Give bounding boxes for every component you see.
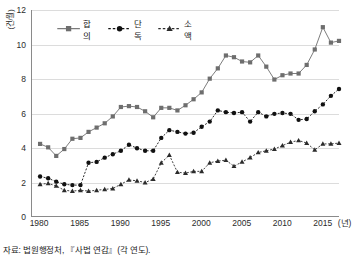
data-point-marker xyxy=(62,188,67,192)
data-point-marker xyxy=(337,140,342,144)
data-point-marker xyxy=(256,110,260,114)
data-point-marker xyxy=(337,39,341,43)
data-point-marker xyxy=(264,65,268,69)
data-point-marker xyxy=(46,176,50,180)
data-point-marker xyxy=(280,111,284,115)
data-point-marker xyxy=(159,160,164,164)
y-tick-label: 8 xyxy=(21,75,26,84)
data-point-marker xyxy=(127,104,131,108)
data-point-marker xyxy=(94,160,98,164)
data-point-marker xyxy=(151,149,155,153)
data-point-marker xyxy=(103,155,107,159)
series-line xyxy=(40,140,339,191)
data-point-marker xyxy=(167,106,171,110)
y-axis-tick-labels: 121086420 xyxy=(0,10,29,217)
data-point-marker xyxy=(151,115,155,119)
data-point-marker xyxy=(304,117,308,121)
data-point-marker xyxy=(240,59,244,63)
legend-swatch-square-icon xyxy=(56,23,81,34)
y-tick-label: 0 xyxy=(21,213,26,222)
data-point-marker xyxy=(191,97,195,101)
data-point-marker xyxy=(78,136,82,140)
data-point-marker xyxy=(175,170,180,174)
chart-legend: 합의단독소액 xyxy=(56,17,195,41)
data-point-marker xyxy=(135,105,139,109)
data-point-marker xyxy=(159,106,163,110)
legend-label: 단독 xyxy=(134,17,144,41)
data-point-marker xyxy=(38,174,42,178)
legend-item-소액[interactable]: 소액 xyxy=(157,17,195,41)
data-point-marker xyxy=(102,187,107,191)
data-point-marker xyxy=(143,180,148,184)
series-소액 xyxy=(38,138,342,193)
data-point-marker xyxy=(38,142,42,146)
data-point-marker xyxy=(46,145,50,149)
legend-swatch-triangle-icon xyxy=(157,23,182,34)
legend-swatch-circle-icon xyxy=(107,23,132,34)
chart-figure: (건/월) 121086420 198019851990199520002005… xyxy=(0,0,357,262)
data-point-marker xyxy=(296,118,300,122)
data-point-marker xyxy=(248,60,252,64)
data-point-marker xyxy=(54,154,58,158)
x-axis-tick-labels: 19801985199019952000200520102015 xyxy=(31,219,339,233)
data-point-marker xyxy=(223,158,228,162)
data-point-marker xyxy=(240,110,244,114)
data-point-marker xyxy=(224,53,228,57)
data-point-marker xyxy=(127,143,131,147)
data-point-marker xyxy=(248,155,253,159)
data-point-marker xyxy=(167,152,172,156)
x-tick-label: 1985 xyxy=(70,219,89,228)
data-point-marker xyxy=(86,130,90,134)
data-point-marker xyxy=(54,179,58,183)
data-point-marker xyxy=(272,112,276,116)
data-point-marker xyxy=(119,149,123,153)
data-point-marker xyxy=(207,160,212,164)
data-point-marker xyxy=(240,159,245,163)
data-point-marker xyxy=(329,41,333,45)
source-note: 자료: 법원행정처, 『사법 연감』(각 연도). xyxy=(3,243,150,255)
plot-area xyxy=(31,10,339,217)
x-axis-unit-label: (년) xyxy=(338,219,352,228)
series-line xyxy=(40,89,339,185)
data-point-marker xyxy=(159,136,163,140)
data-point-marker xyxy=(116,26,122,32)
data-point-marker xyxy=(111,114,115,118)
data-point-marker xyxy=(216,108,220,112)
data-point-marker xyxy=(232,55,236,59)
legend-item-합의[interactable]: 합의 xyxy=(56,17,94,41)
data-point-marker xyxy=(175,108,179,112)
x-tick-label: 1995 xyxy=(151,219,170,228)
y-tick-label: 12 xyxy=(17,6,26,15)
data-point-marker xyxy=(70,137,74,141)
y-tick-label: 4 xyxy=(21,144,26,153)
data-point-marker xyxy=(288,140,293,144)
series-line xyxy=(40,27,339,156)
data-point-marker xyxy=(143,149,147,153)
data-point-marker xyxy=(78,183,82,187)
legend-item-단독[interactable]: 단독 xyxy=(107,17,145,41)
x-tick-label: 2000 xyxy=(192,219,211,228)
data-point-marker xyxy=(272,146,277,150)
data-point-marker xyxy=(199,169,204,173)
data-point-marker xyxy=(216,66,220,70)
data-point-marker xyxy=(175,130,179,134)
data-point-marker xyxy=(119,105,123,109)
data-point-marker xyxy=(208,77,212,81)
x-tick-label: 2015 xyxy=(313,219,332,228)
data-point-marker xyxy=(62,182,66,186)
x-tick-label: 2005 xyxy=(232,219,251,228)
data-point-marker xyxy=(321,25,325,29)
data-point-marker xyxy=(94,188,99,192)
data-point-marker xyxy=(264,114,268,118)
data-point-marker xyxy=(296,138,301,142)
y-tick-label: 2 xyxy=(21,178,26,187)
x-tick-label: 1980 xyxy=(30,219,49,228)
data-point-marker xyxy=(78,188,83,192)
data-point-marker xyxy=(70,183,74,187)
data-point-marker xyxy=(191,131,195,135)
data-point-marker xyxy=(118,182,123,186)
y-tick-label: 10 xyxy=(17,40,26,49)
data-point-marker xyxy=(46,181,51,185)
data-point-marker xyxy=(329,94,333,98)
data-point-marker xyxy=(183,131,187,135)
